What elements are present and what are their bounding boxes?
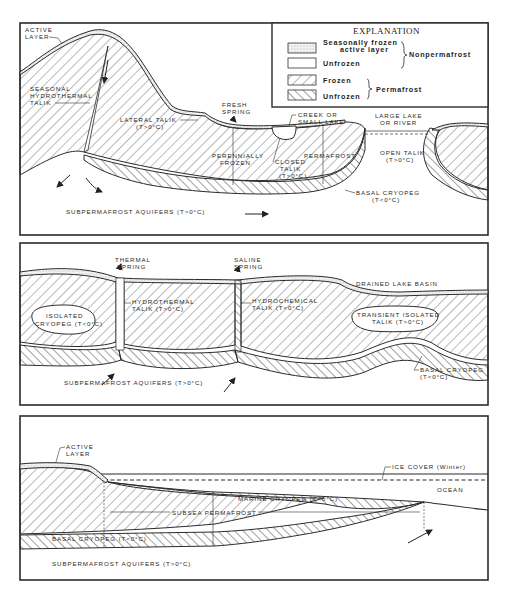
label-active-layer-1: ACTIVE <box>25 26 53 33</box>
legend-item-0-line2: active layer <box>340 45 389 54</box>
label-hydrothermal-2: TALIK (T>0°C) <box>132 305 184 312</box>
label-active-layer-2: LAYER <box>25 33 49 40</box>
label-lake-1: LARGE LAKE <box>375 112 423 119</box>
label-aquifers-3: SUBPERMAFROST AQUIFERS (T>0°C) <box>52 560 191 567</box>
label-ice-cover: ICE COVER (Winter) <box>392 463 466 470</box>
label-creek-1: CREEK OR <box>298 111 338 118</box>
leader-basal <box>345 190 355 193</box>
label-hydrochemical-2: TALIK (T<0°C) <box>252 304 304 311</box>
panel-2-talik-types: THERMAL SPRING SALINE SPRING DRAINED LAK… <box>20 243 488 405</box>
permafrost-diagram: ACTIVE LAYER SEASONAL HYDROTHERMAL TALIK… <box>0 0 510 597</box>
legend-item-3-label: Unfrozen <box>323 92 361 101</box>
label-creek-2: SMALL LAKE <box>298 118 345 125</box>
label-active-p3-2: LAYER <box>66 450 90 457</box>
label-drained: DRAINED LAKE BASIN <box>356 280 438 287</box>
label-saline-1: SALINE <box>234 256 261 263</box>
label-hydrothermal-1: HYDROTHERMAL <box>132 298 195 305</box>
panel-3-subsea-permafrost: ACTIVE LAYER ICE COVER (Winter) OCEAN MA… <box>20 416 488 580</box>
label-perennially-1: PERENNIALLY <box>212 152 264 159</box>
seabed-line <box>424 502 488 510</box>
label-transient-2: TALIK (T>0°C) <box>372 318 424 325</box>
label-basal-2: (T<0°C) <box>372 196 400 203</box>
legend-title: EXPLANATION <box>353 26 420 36</box>
label-lateral-2: (T>0°C) <box>136 123 164 130</box>
leader-active-layer <box>49 37 62 44</box>
fresh-spring-arrow <box>232 118 236 122</box>
label-closed-1: CLOSED <box>275 158 306 165</box>
label-fresh-1: FRESH <box>222 101 247 108</box>
frozen-block-2 <box>124 281 235 349</box>
label-open-2: (T>0°C) <box>386 156 414 163</box>
label-closed-3: (T>0°C) <box>279 172 307 179</box>
label-lateral-1: LATERAL TALIK <box>120 116 177 123</box>
label-transient-1: TRANSIENT ISOLATED <box>357 311 440 318</box>
flow-arrow-2 <box>86 178 102 192</box>
label-closed-2: TALIK <box>280 165 301 172</box>
label-isolated-1: ISOLATED <box>46 312 83 319</box>
panel-1-terrestrial-permafrost: ACTIVE LAYER SEASONAL HYDROTHERMAL TALIK… <box>20 23 488 235</box>
legend-swatch-frozen <box>288 75 316 85</box>
label-marine-cryopeg: MARINE CRYOPEG (T<0°C) <box>238 495 338 502</box>
label-isolated-2: CRYOPEG (T<0°C) <box>35 320 103 327</box>
label-basal-p3: BASAL CRYOPEG (T<0°C) <box>52 535 147 542</box>
label-lake-2: OR RIVER <box>380 119 417 126</box>
legend-group-permafrost: Permafrost <box>376 85 422 94</box>
legend-swatch-active-layer <box>288 43 316 53</box>
label-basal-p2-1: BASAL CRYOPEG <box>420 366 484 373</box>
legend-item-1-label: Unfrozen <box>323 59 361 68</box>
legend-item-2-label: Frozen <box>323 76 351 85</box>
hydrochemical-talik-channel <box>235 280 241 352</box>
legend-swatch-unfrozen <box>288 58 316 68</box>
flow-arrow-1 <box>57 175 70 187</box>
label-seasonal-2: HYDROTHERMAL <box>30 92 93 99</box>
label-aquifers-1: SUBPERMAFROST AQUIFERS (T>0°C) <box>66 208 205 215</box>
label-saline-2: SPRING <box>234 263 263 270</box>
label-ocean: OCEAN <box>437 486 464 493</box>
label-thermal-2: SPRING <box>117 263 146 270</box>
legend-swatch-unfrozen-pf <box>288 90 316 100</box>
label-thermal-1: THERMAL <box>115 256 151 263</box>
legend: EXPLANATION Seasonally frozen active lay… <box>272 23 488 107</box>
label-seasonal-1: SEASONAL <box>30 85 71 92</box>
label-seasonal-3: TALIK <box>30 99 51 106</box>
hydrothermal-talik-channel <box>116 278 124 350</box>
label-basal-1: BASAL CRYOPEG <box>356 189 420 196</box>
label-permafrost: PERMAFROST <box>304 152 356 159</box>
leader-active-p3 <box>56 447 65 462</box>
label-fresh-2: SPRING <box>222 108 251 115</box>
label-hydrochemical-1: HYDROCHEMICAL <box>252 297 318 304</box>
label-open-1: OPEN TALIK <box>380 149 425 156</box>
aquifer-arrow-2 <box>224 378 235 392</box>
legend-group-nonpermafrost: Nonpermafrost <box>409 50 471 59</box>
label-basal-p2-2: (T<0°C) <box>420 373 448 380</box>
label-aquifers-2: SUBPERMAFROST AQUIFERS (T>0°C) <box>64 379 203 386</box>
label-perennially-2: FROZEN <box>220 159 251 166</box>
label-active-p3-1: ACTIVE <box>66 443 94 450</box>
label-subsea: SUBSEA PERMAFROST <box>172 509 257 516</box>
upwelling-arrow <box>408 530 432 543</box>
